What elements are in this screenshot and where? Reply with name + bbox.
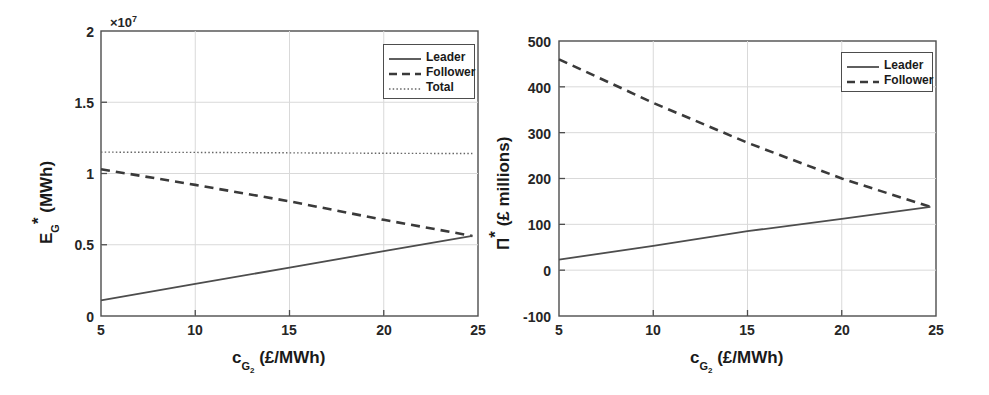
x-axis-title-left: cG2 (£/MWh) [232,349,325,366]
y-tick-label: 1.5 [51,96,94,110]
legend-item-leader[interactable]: Leader [846,57,926,72]
x-tick-label: 25 [921,323,951,337]
chart-panel-left: ×107 2 1.5 1 0.5 0 5 10 15 20 25 EG* (MW… [0,0,494,395]
x-tick-label: 15 [732,323,762,337]
y-tick-label: -100 [500,310,551,324]
x-tick-label: 10 [638,323,668,337]
y-tick-label: 0.5 [51,238,94,252]
legend-label: Total [426,81,454,93]
x-tick-label: 10 [180,323,210,337]
legend-swatch-solid-icon [846,59,880,71]
x-tick-label: 5 [544,323,574,337]
x-tick-label: 25 [463,323,493,337]
legend-swatch-dashed-icon [846,74,880,86]
legend-swatch-solid-icon [388,51,422,63]
x-tick-label: 15 [274,323,304,337]
legend-item-leader[interactable]: Leader [388,49,468,64]
y-tick-label: 0 [61,310,94,324]
x-tick-label: 5 [86,323,116,337]
x-tick-label: 20 [827,323,857,337]
y-tick-label: 400 [504,81,551,95]
legend-swatch-dotted-icon [388,81,422,93]
x-tick-label: 20 [369,323,399,337]
legend-label: Leader [884,59,923,71]
y-axis-exponent-left: ×107 [110,16,137,29]
y-tick-label: 1 [61,167,94,181]
y-tick-label: 2 [61,25,94,39]
y-axis-title-right: Π* (£ millions) [495,137,512,250]
legend-right[interactable]: Leader Follower [841,52,933,92]
legend-item-follower[interactable]: Follower [846,72,926,87]
legend-left[interactable]: Leader Follower Total [383,44,475,99]
y-tick-label: 0 [504,264,551,278]
legend-item-follower[interactable]: Follower [388,64,468,79]
legend-item-total[interactable]: Total [388,79,468,94]
x-axis-title-right: cG2 (£/MWh) [690,349,783,366]
y-tick-label: 500 [504,35,551,49]
legend-label: Follower [426,66,475,78]
figure-container: ×107 2 1.5 1 0.5 0 5 10 15 20 25 EG* (MW… [0,0,989,395]
legend-label: Follower [884,74,933,86]
chart-panel-right: 500 400 300 200 100 0 -100 5 10 15 20 25… [494,0,989,395]
legend-swatch-dashed-icon [388,66,422,78]
legend-label: Leader [426,51,465,63]
y-axis-title-left: EG* (MWh) [38,161,55,244]
